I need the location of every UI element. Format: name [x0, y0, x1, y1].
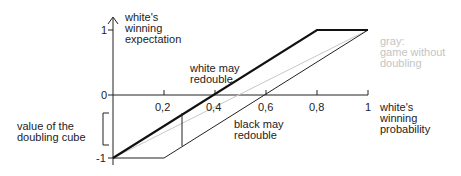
x-tick-0-2: 0,2 — [155, 102, 170, 113]
black-redouble-label: black may redouble — [234, 119, 284, 141]
x-axis-label: white's winning probability — [380, 102, 430, 135]
chart-canvas — [0, 0, 461, 176]
y-axis-label: white's winning expectation — [125, 12, 181, 45]
y-tick-1: 1 — [101, 25, 107, 36]
gray-note-label: gray: game without doubling — [380, 36, 445, 69]
white-redouble-label: white may redouble — [190, 63, 240, 85]
x-tick-0-6: 0,6 — [258, 102, 273, 113]
x-tick-1: 1 — [365, 102, 371, 113]
cube-value-bracket — [103, 113, 109, 145]
cube-value-label: value of the doubling cube — [17, 121, 86, 143]
x-tick-0-4: 0,4 — [206, 102, 221, 113]
y-tick-minus-1: -1 — [96, 153, 106, 164]
y-tick-0: 0 — [101, 90, 107, 101]
x-tick-0-8: 0,8 — [309, 102, 324, 113]
